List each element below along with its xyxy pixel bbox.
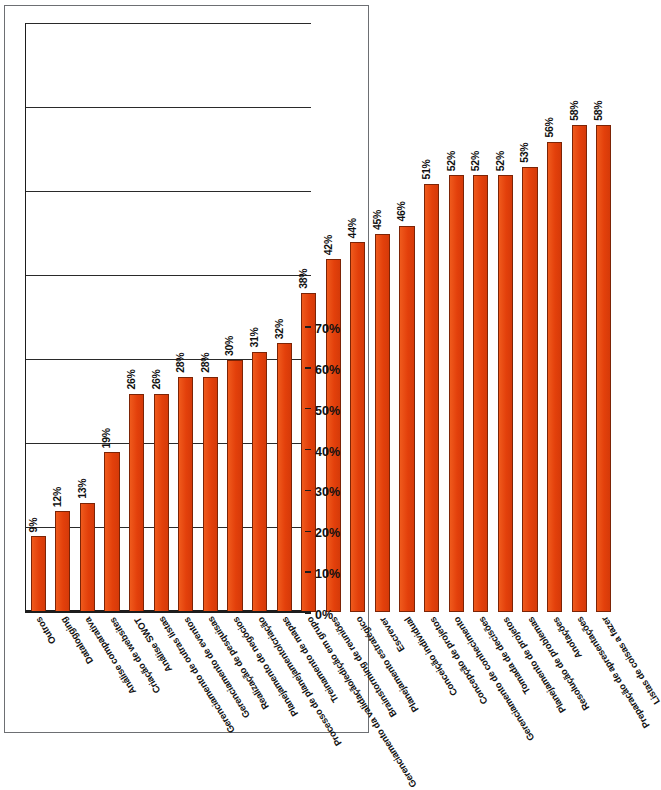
bar-row: 45%Escrever bbox=[374, 24, 389, 612]
tick-mark bbox=[305, 531, 311, 532]
bar bbox=[104, 452, 119, 612]
bar-row: 51%Concepção de projetos bbox=[424, 24, 439, 612]
bar-value-label: 56% bbox=[542, 117, 554, 137]
bar-row: 28%Gerenciamento de eventos bbox=[178, 24, 193, 612]
tick-mark bbox=[305, 449, 311, 450]
bar-value-label: 32% bbox=[272, 319, 284, 339]
bar-value-label: 9% bbox=[26, 518, 38, 533]
bar bbox=[276, 343, 291, 612]
bar bbox=[55, 511, 70, 612]
x-tick-label: 70% bbox=[315, 322, 340, 336]
tick-mark bbox=[305, 408, 311, 409]
bar-value-label: 19% bbox=[100, 428, 112, 448]
category-label: Outros bbox=[33, 615, 58, 646]
tick-mark bbox=[305, 326, 311, 327]
tick-mark bbox=[305, 612, 311, 613]
plot-area: 58%Listas de coisas a fazer58%Preparação… bbox=[25, 23, 311, 613]
x-tick-label: 0% bbox=[315, 608, 333, 622]
x-tick-label: 60% bbox=[315, 363, 340, 377]
bar-value-label: 30% bbox=[223, 336, 235, 356]
bar-value-label: 46% bbox=[395, 201, 407, 221]
bar-row: 26%Análise SWOT bbox=[129, 24, 144, 612]
bar-value-label: 45% bbox=[370, 210, 382, 230]
bar bbox=[546, 142, 561, 612]
bar bbox=[153, 394, 168, 612]
bar-row: 52%Gerenciamento de conhecimento bbox=[448, 24, 463, 612]
bar-value-label: 38% bbox=[297, 269, 309, 289]
bar bbox=[497, 175, 512, 612]
tick-mark bbox=[305, 367, 311, 368]
bar-chart: 58%Listas de coisas a fazer58%Preparação… bbox=[11, 17, 363, 721]
bar bbox=[448, 175, 463, 612]
bar-row: 19%Criação de websites bbox=[104, 24, 119, 612]
bar bbox=[571, 125, 586, 612]
rotated-chart-stage: 58%Listas de coisas a fazer58%Preparação… bbox=[11, 17, 363, 721]
bar-row: 58%Preparação de apresentações bbox=[571, 24, 586, 612]
bar-row: 30%Planejamento de negócios bbox=[227, 24, 242, 612]
bar bbox=[424, 184, 439, 612]
category-axis bbox=[25, 611, 311, 613]
bar bbox=[473, 175, 488, 612]
bar-row: 28%Realização de pesquisas bbox=[202, 24, 217, 612]
bar-value-label: 28% bbox=[174, 353, 186, 373]
bar-row: 9%Outros bbox=[30, 24, 45, 612]
x-tick-label: 40% bbox=[315, 445, 340, 459]
bar-row: 13%Análise comparativa bbox=[79, 24, 94, 612]
bar bbox=[79, 503, 94, 612]
bar bbox=[178, 377, 193, 612]
bar-row: 52%Tomada de decisões bbox=[473, 24, 488, 612]
bar-value-label: 28% bbox=[198, 353, 210, 373]
x-axis-tick-labels: 0%10%20%30%40%50%60%70% bbox=[311, 23, 363, 613]
tick-mark bbox=[305, 490, 311, 491]
bar-value-label: 13% bbox=[75, 479, 87, 499]
x-tick-label: 20% bbox=[315, 526, 340, 540]
x-tick-label: 10% bbox=[315, 567, 340, 581]
bar-value-label: 52% bbox=[493, 151, 505, 171]
bar bbox=[374, 234, 389, 612]
bar-row: 46%Conceição individual bbox=[399, 24, 414, 612]
scanned-page-frame: 58%Listas de coisas a fazer58%Preparação… bbox=[4, 5, 369, 733]
bar bbox=[202, 377, 217, 612]
bar-value-label: 52% bbox=[444, 151, 456, 171]
bar-value-label: 58% bbox=[592, 101, 604, 121]
bar-value-label: 12% bbox=[51, 487, 63, 507]
bar-row: 26%Gerenciamento de outras listas bbox=[153, 24, 168, 612]
bar-row: 31%Processo de planejamento/criação bbox=[251, 24, 266, 612]
bar-value-label: 26% bbox=[125, 369, 137, 389]
x-tick-label: 50% bbox=[315, 404, 340, 418]
bar-row: 56%Anotações bbox=[546, 24, 561, 612]
bar-row: 12%Datalogging bbox=[55, 24, 70, 612]
bar-value-label: 26% bbox=[149, 369, 161, 389]
bar bbox=[129, 394, 144, 612]
bar-value-label: 31% bbox=[247, 327, 259, 347]
bar-value-label: 53% bbox=[518, 143, 530, 163]
bar bbox=[251, 352, 266, 612]
bar-row: 53%Resolução de problemas bbox=[522, 24, 537, 612]
bar-row: 32%Treinamento de mapas bbox=[276, 24, 291, 612]
bar bbox=[522, 167, 537, 612]
x-tick-label: 30% bbox=[315, 485, 340, 499]
bar bbox=[596, 125, 611, 612]
bar-row: 58%Listas de coisas a fazer bbox=[596, 24, 611, 612]
bar-value-label: 52% bbox=[469, 151, 481, 171]
tick-mark bbox=[305, 571, 311, 572]
bar-row: 52%Planejamento de projetos bbox=[497, 24, 512, 612]
bar bbox=[227, 360, 242, 612]
bar bbox=[30, 536, 45, 612]
bar-value-label: 51% bbox=[420, 159, 432, 179]
bar-value-label: 58% bbox=[567, 101, 579, 121]
bar bbox=[399, 226, 414, 612]
plot-inner: 58%Listas de coisas a fazer58%Preparação… bbox=[26, 24, 311, 612]
